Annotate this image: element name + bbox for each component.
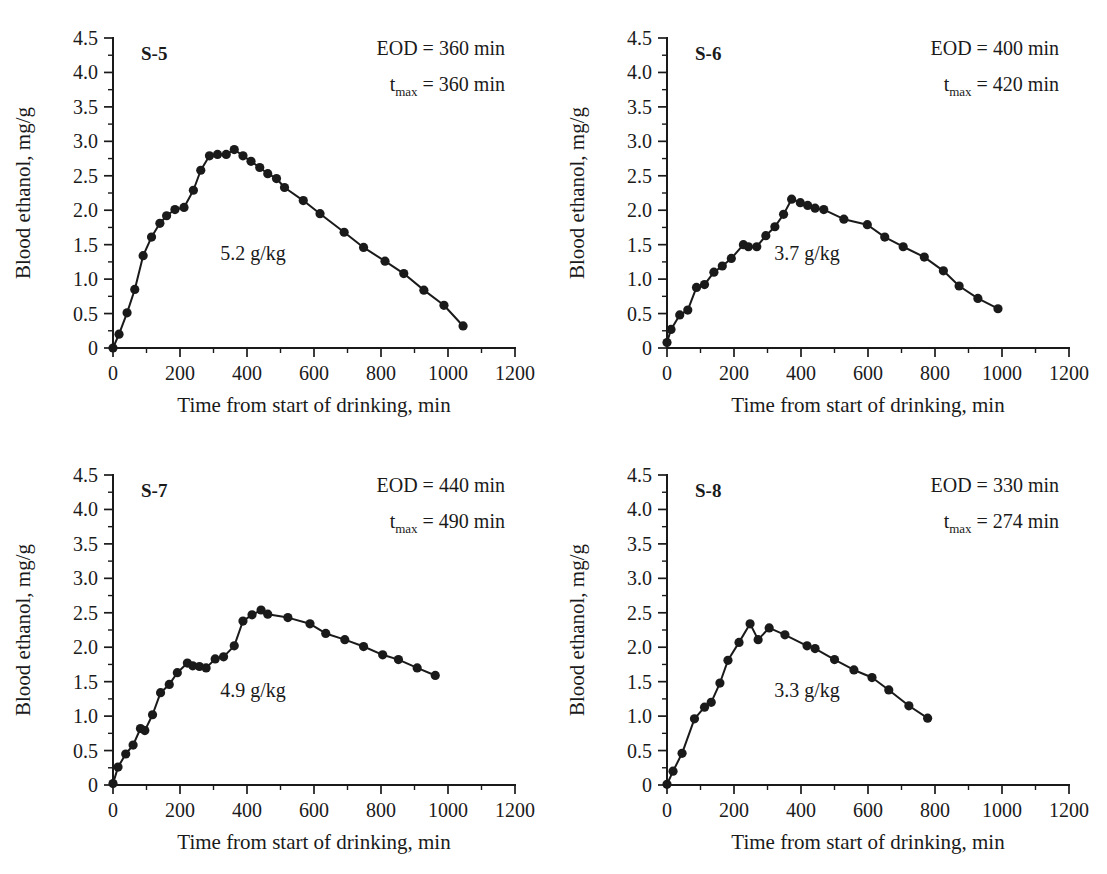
data-point <box>754 635 763 644</box>
data-point <box>202 663 211 672</box>
y-tick-label: 3.0 <box>627 130 652 152</box>
subject-label: S-7 <box>141 480 168 501</box>
data-point <box>849 665 858 674</box>
panel-s6: 00.51.01.52.02.53.03.54.04.5020040060080… <box>554 0 1107 437</box>
x-axis-title: Time from start of drinking, min <box>731 393 1005 417</box>
tmax-value: = 490 min <box>418 510 505 532</box>
data-point <box>189 186 198 195</box>
data-point <box>230 145 239 154</box>
x-tick-label: 1000 <box>428 362 468 384</box>
tmax-subscript: max <box>395 84 418 99</box>
y-tick-label: 3.5 <box>73 96 98 118</box>
data-point <box>399 269 408 278</box>
data-point <box>108 779 117 788</box>
eod-annotation: EOD = 400 min <box>931 37 1060 59</box>
dose-annotation: 3.3 g/kg <box>774 679 840 702</box>
data-point <box>394 655 403 664</box>
data-point <box>662 780 671 789</box>
data-point <box>155 219 164 228</box>
data-point <box>340 228 349 237</box>
tmax-subscript: max <box>395 521 418 536</box>
eod-annotation: EOD = 440 min <box>377 474 506 496</box>
data-point <box>129 740 138 749</box>
data-point <box>675 310 684 319</box>
data-point <box>920 252 929 261</box>
tmax-value: = 360 min <box>418 73 505 95</box>
data-point <box>819 205 828 214</box>
data-point <box>718 261 727 270</box>
y-tick-label: 4.0 <box>627 498 652 520</box>
y-tick-label: 1.0 <box>627 705 652 727</box>
data-point <box>359 642 368 651</box>
data-point <box>973 294 982 303</box>
data-point <box>148 710 157 719</box>
data-point <box>263 169 272 178</box>
y-tick-label: 4.5 <box>73 27 98 49</box>
y-tick-label: 0.5 <box>73 740 98 762</box>
y-tick-label: 2.0 <box>627 199 652 221</box>
data-point <box>113 762 122 771</box>
data-point <box>744 242 753 251</box>
data-point <box>130 285 139 294</box>
x-tick-label: 400 <box>232 799 262 821</box>
y-tick-label: 0.5 <box>627 740 652 762</box>
data-point <box>315 209 324 218</box>
data-point <box>162 211 171 220</box>
data-point <box>662 338 671 347</box>
panel-s8: 00.51.01.52.02.53.03.54.04.5020040060080… <box>554 437 1107 874</box>
y-tick-label: 2.5 <box>627 165 652 187</box>
data-point <box>380 257 389 266</box>
data-point <box>830 655 839 664</box>
dose-annotation: 4.9 g/kg <box>220 679 286 702</box>
data-point <box>752 242 761 251</box>
x-tick-label: 0 <box>108 799 118 821</box>
x-tick-label: 200 <box>719 799 749 821</box>
data-point <box>707 698 716 707</box>
data-point <box>884 685 893 694</box>
data-point <box>880 232 889 241</box>
x-tick-label: 800 <box>920 799 950 821</box>
panel-s8-svg: 00.51.01.52.02.53.03.54.04.5020040060080… <box>554 437 1107 874</box>
data-point <box>165 680 174 689</box>
y-tick-label: 4.5 <box>73 464 98 486</box>
x-tick-label: 600 <box>853 799 883 821</box>
subject-label: S-6 <box>695 43 721 64</box>
y-tick-label: 0 <box>88 774 98 796</box>
tmax-annotation: tmax = 490 min <box>390 510 505 536</box>
data-point <box>431 671 440 680</box>
data-point <box>761 231 770 240</box>
panel-s5: 00.51.01.52.02.53.03.54.04.5020040060080… <box>0 0 553 437</box>
data-point <box>173 668 182 677</box>
data-point <box>179 203 188 212</box>
x-tick-label: 0 <box>108 362 118 384</box>
data-point <box>205 151 214 160</box>
y-tick-label: 3.0 <box>73 567 98 589</box>
y-tick-label: 0.5 <box>73 303 98 325</box>
y-tick-label: 3.5 <box>627 533 652 555</box>
x-tick-label: 0 <box>662 362 672 384</box>
data-point <box>668 767 677 776</box>
data-point <box>839 215 848 224</box>
data-point <box>359 243 368 252</box>
data-point <box>765 623 774 632</box>
data-point <box>246 157 255 166</box>
y-tick-label: 1.5 <box>627 234 652 256</box>
data-point <box>863 220 872 229</box>
y-tick-label: 3.5 <box>73 533 98 555</box>
data-point <box>211 654 220 663</box>
data-point <box>140 726 149 735</box>
data-point <box>700 280 709 289</box>
x-tick-label: 200 <box>719 362 749 384</box>
data-point <box>139 251 148 260</box>
x-tick-label: 200 <box>165 799 195 821</box>
data-point <box>723 656 732 665</box>
eod-annotation: EOD = 360 min <box>377 37 506 59</box>
y-tick-label: 2.5 <box>627 602 652 624</box>
data-point <box>213 150 222 159</box>
panel-s5-svg: 00.51.01.52.02.53.03.54.04.5020040060080… <box>0 0 553 437</box>
data-point <box>378 650 387 659</box>
y-axis-title: Blood ethanol, mg/g <box>565 543 589 716</box>
data-point <box>147 232 156 241</box>
data-point <box>255 163 264 172</box>
y-tick-label: 4.5 <box>627 27 652 49</box>
